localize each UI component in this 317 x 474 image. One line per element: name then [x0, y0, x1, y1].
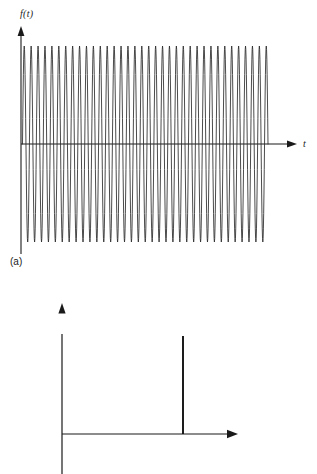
panel-tag-a: (a) [10, 256, 22, 267]
arrow-up-icon [58, 303, 65, 314]
figure-root: f(t) t (a) F(ν) ν/MHz 100 (b) [0, 0, 317, 474]
x-axis-group [62, 430, 238, 438]
time-domain-plot [0, 0, 317, 280]
panel-time-domain: f(t) t (a) [0, 0, 317, 280]
y-axis-group [58, 303, 65, 474]
arrow-right-icon [227, 430, 238, 438]
y-axis-label-ft: f(t) [20, 8, 33, 19]
x-axis-group [21, 140, 297, 147]
arrow-up-icon [18, 26, 25, 36]
x-axis-label-t: t [303, 138, 306, 149]
panel-frequency-domain: F(ν) ν/MHz 100 (b) [0, 270, 317, 474]
frequency-domain-plot [0, 270, 317, 474]
arrow-right-icon [287, 140, 297, 147]
